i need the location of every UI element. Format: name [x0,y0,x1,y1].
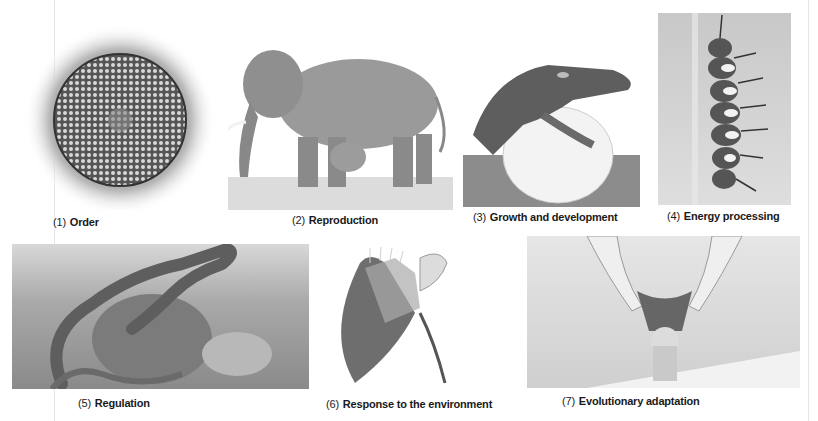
caption-reproduction: (2)Reproduction [292,214,378,226]
photo-lizard [12,244,309,389]
photo-sunflower [20,20,220,210]
caption-response-environment: (6)Response to the environment [326,398,492,410]
photo-crocodile-hatching [463,55,640,207]
photo-caterpillar [658,13,791,205]
photo-owl [527,236,800,388]
caption-order: (1)Order [53,216,99,228]
page-edge-right [808,0,809,421]
photo-elephants [228,42,453,210]
photo-venus-flytrap [325,243,475,388]
caption-energy-processing: (4)Energy processing [667,210,780,222]
caption-evolutionary-adaptation: (7)Evolutionary adaptation [562,395,700,407]
caption-growth-development: (3)Growth and development [473,211,617,223]
caption-regulation: (5)Regulation [78,397,150,409]
